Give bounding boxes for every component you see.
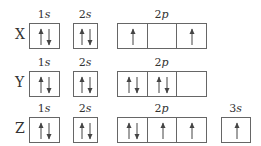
orbital-row-z: Z1s2s2p3s [0,102,261,146]
orbital-label-number: 2 [79,56,86,69]
orbital-cell [222,118,250,142]
spin-up-arrow-icon [78,76,86,94]
spin-down-arrow-icon [133,122,141,140]
orbital-label-subshell: p [161,56,168,69]
orbital-label: 2p [117,56,206,69]
orbital-cell [148,118,178,142]
orbital-cell [177,72,206,96]
orbital-cell [177,24,206,48]
element-label: Z [15,120,25,136]
spin-up-arrow-icon [129,28,137,46]
orbital-label-number: 1 [38,8,45,21]
spin-up-arrow-icon [155,76,163,94]
orbital-label-subshell: s [45,102,51,115]
spin-up-arrow-icon [37,28,45,46]
orbital-cell [118,118,148,142]
orbital-label-number: 1 [38,102,45,115]
spin-down-arrow-icon [86,122,94,140]
spin-down-arrow-icon [86,76,94,94]
orbital-cell [148,72,178,96]
orbital-box-2s [73,23,98,49]
spin-down-arrow-icon [133,76,141,94]
orbital-box-2p [117,117,207,143]
orbital-box-1s [29,23,60,49]
orbital-cell [177,118,206,142]
spin-up-arrow-icon [125,76,133,94]
spin-up-arrow-icon [37,122,45,140]
orbital-label: 2s [73,102,97,115]
orbital-label-subshell: s [86,8,92,21]
orbital-cell [30,72,59,96]
orbital-label-subshell: s [45,56,51,69]
orbital-label-number: 2 [79,8,86,21]
orbital-box-3s [221,117,251,143]
spin-down-arrow-icon [45,28,53,46]
orbital-box-2s [73,71,98,97]
orbital-label: 2s [73,8,97,21]
orbital-cell [30,24,59,48]
orbital-label: 1s [29,102,59,115]
spin-down-arrow-icon [86,28,94,46]
spin-up-arrow-icon [37,76,45,94]
orbital-cell [74,24,97,48]
orbital-label: 1s [29,8,59,21]
orbital-label: 1s [29,56,59,69]
spin-up-arrow-icon [159,122,167,140]
orbital-row-y: Y1s2s2p [0,56,261,102]
spin-down-arrow-icon [45,76,53,94]
spin-down-arrow-icon [163,76,171,94]
orbital-box-2p [117,23,207,49]
orbital-box-2p [117,71,207,97]
orbital-label: 2p [117,8,206,21]
orbital-cell [118,72,148,96]
orbital-box-2s [73,117,98,143]
orbital-cell [74,118,97,142]
orbital-label-number: 2 [79,102,86,115]
orbital-box-1s [29,71,60,97]
orbital-label-subshell: p [161,8,168,21]
spin-up-arrow-icon [188,28,196,46]
orbital-cell [30,118,59,142]
orbital-cell [118,24,148,48]
orbital-label-subshell: p [161,102,168,115]
element-label: X [15,26,25,42]
orbital-label-number: 1 [38,56,45,69]
orbital-label-subshell: s [86,102,92,115]
orbital-label-subshell: s [45,8,51,21]
spin-up-arrow-icon [188,122,196,140]
orbital-cell [148,24,178,48]
element-label: Y [15,74,24,90]
orbital-label-subshell: s [86,56,92,69]
orbital-label: 2p [117,102,206,115]
orbital-label: 2s [73,56,97,69]
spin-up-arrow-icon [125,122,133,140]
spin-up-arrow-icon [233,122,241,140]
orbital-label-subshell: s [236,102,242,115]
orbital-label: 3s [221,102,250,115]
spin-down-arrow-icon [45,122,53,140]
orbital-cell [74,72,97,96]
orbital-box-1s [29,117,60,143]
spin-up-arrow-icon [78,28,86,46]
orbital-row-x: X1s2s2p [0,8,261,54]
spin-up-arrow-icon [78,122,86,140]
